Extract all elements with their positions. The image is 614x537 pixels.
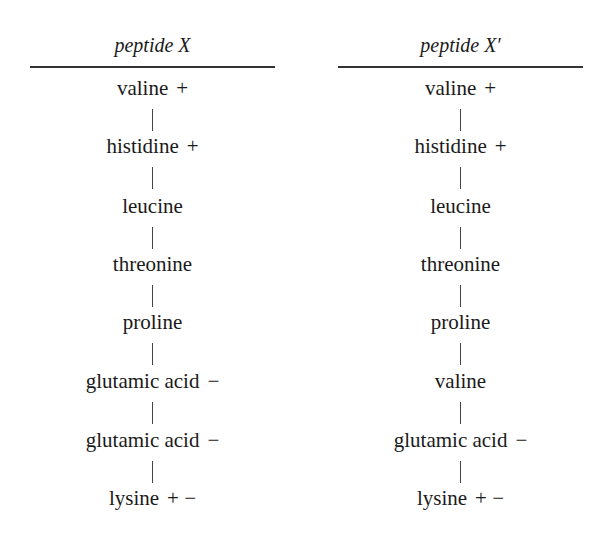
residue: glutamic acid−: [30, 369, 275, 394]
peptide-bond-line: [460, 167, 461, 189]
residue-charge: −: [515, 428, 527, 452]
residue: leucine: [338, 194, 583, 219]
residue-charge: +: [495, 134, 507, 158]
residue: lysine+ −: [338, 486, 583, 511]
peptide-bond-line: [152, 109, 153, 131]
peptide-bond-line: [152, 167, 153, 189]
residue: histidine+: [30, 134, 275, 159]
residue-name: glutamic acid: [86, 369, 200, 393]
residue: valine+: [338, 76, 583, 101]
residue-name: threonine: [421, 252, 500, 276]
residue-name: valine: [425, 76, 476, 100]
residue: valine: [338, 369, 583, 394]
header-rule: [30, 66, 275, 68]
residue-name: proline: [431, 310, 490, 334]
residue-name: threonine: [113, 252, 192, 276]
residue-charge: + −: [475, 486, 504, 510]
residue: threonine: [30, 252, 275, 277]
peptide-bond-line: [460, 402, 461, 424]
residue: leucine: [30, 194, 275, 219]
residue-charge: +: [484, 76, 496, 100]
peptide-bond-line: [460, 343, 461, 365]
residue-name: glutamic acid: [86, 428, 200, 452]
residue: glutamic acid−: [30, 428, 275, 453]
peptide-bond-line: [152, 227, 153, 249]
residue: histidine+: [338, 134, 583, 159]
residue-charge: + −: [167, 486, 196, 510]
column-title: peptide X: [30, 34, 275, 57]
residue: proline: [30, 310, 275, 335]
residue-name: glutamic acid: [394, 428, 508, 452]
residue-name: proline: [123, 310, 182, 334]
residue-name: lysine: [417, 486, 467, 510]
header-rule: [338, 66, 583, 68]
residue: lysine+ −: [30, 486, 275, 511]
peptide-bond-line: [460, 109, 461, 131]
residue-name: lysine: [109, 486, 159, 510]
residue-name: histidine: [414, 134, 486, 158]
residue-charge: +: [187, 134, 199, 158]
residue-charge: +: [176, 76, 188, 100]
residue-name: valine: [435, 369, 486, 393]
residue-name: leucine: [122, 194, 183, 218]
residue-name: valine: [117, 76, 168, 100]
residue-charge: −: [207, 369, 219, 393]
peptide-bond-line: [460, 227, 461, 249]
column-title: peptide X′: [338, 34, 583, 57]
peptide-bond-line: [152, 402, 153, 424]
residue-name: histidine: [106, 134, 178, 158]
peptide-bond-line: [152, 461, 153, 483]
peptide-bond-line: [460, 461, 461, 483]
peptide-bond-line: [152, 285, 153, 307]
residue: proline: [338, 310, 583, 335]
residue: threonine: [338, 252, 583, 277]
residue-charge: −: [207, 428, 219, 452]
residue-name: leucine: [430, 194, 491, 218]
residue: glutamic acid−: [338, 428, 583, 453]
residue: valine+: [30, 76, 275, 101]
peptide-bond-line: [460, 285, 461, 307]
peptide-bond-line: [152, 343, 153, 365]
